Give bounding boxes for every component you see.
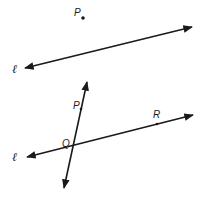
point-q-label: Q: [62, 138, 70, 149]
point-r: [156, 123, 159, 126]
transversal-line-pq: [64, 82, 87, 188]
point-p: [81, 16, 85, 20]
figure-2: P Q R ℓ: [12, 82, 193, 188]
geometry-diagram: P ℓ P Q R ℓ: [0, 0, 203, 201]
line-l-1: [25, 27, 192, 68]
line-l-label-2: ℓ: [12, 150, 17, 164]
line-l-2: [27, 115, 193, 157]
point-r-label: R: [153, 109, 160, 120]
figure-1: P ℓ: [12, 7, 192, 76]
point-p-label-2: P: [73, 100, 80, 111]
point-p-2: [80, 108, 83, 111]
point-p-label: P: [74, 7, 81, 18]
line-l-label-1: ℓ: [12, 62, 17, 76]
